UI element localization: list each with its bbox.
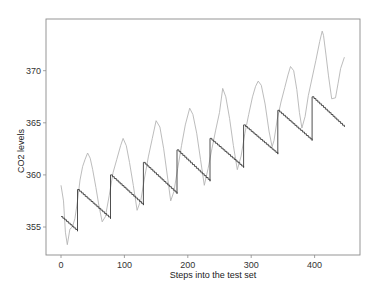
x-axis: 0100200300400 — [58, 255, 322, 270]
y-axis: 355360365370 — [26, 66, 46, 232]
y-tick-label: 360 — [26, 170, 41, 180]
y-axis-label: CO2 levels — [16, 128, 26, 173]
x-axis-label: Steps into the test set — [170, 270, 257, 280]
series-layer — [61, 31, 344, 245]
plot-frame — [46, 19, 360, 255]
x-tick-label: 200 — [180, 260, 195, 270]
y-tick-label: 370 — [26, 66, 41, 76]
y-tick-label: 365 — [26, 118, 41, 128]
x-tick-label: 400 — [307, 260, 322, 270]
series-actual-line — [61, 31, 344, 245]
y-tick-label: 355 — [26, 222, 41, 232]
co2-line-chart: 355360365370 0100200300400 Steps into th… — [0, 0, 377, 288]
x-tick-label: 300 — [244, 260, 259, 270]
x-tick-label: 100 — [117, 260, 132, 270]
series-forecast-line — [61, 97, 344, 231]
x-tick-label: 0 — [58, 260, 63, 270]
